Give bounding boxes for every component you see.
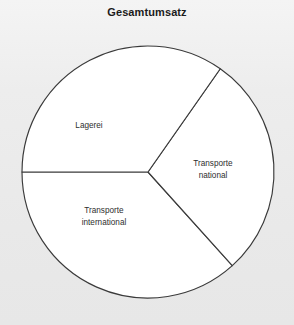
pie-chart-graphic: Lagerei Transportenational Transporteint… bbox=[0, 0, 294, 325]
pie-slices bbox=[22, 46, 274, 298]
pie-chart-panel: Gesamtumsatz Lagerei Transportenational … bbox=[0, 0, 294, 325]
pie-slice-label-lagerei: Lagerei bbox=[75, 121, 102, 130]
